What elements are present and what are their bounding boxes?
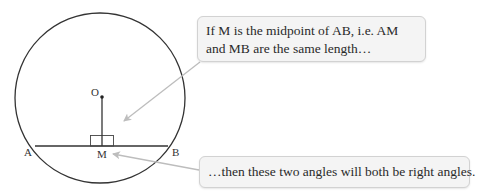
label-a: A <box>24 146 32 158</box>
callout-midpoint-text: If M is the midpoint of AB, i.e. AM and … <box>206 23 398 56</box>
callout-right-angles-text: …then these two angles will both be righ… <box>208 164 475 179</box>
diagram-stage: O A B M If M is the midpoint of AB, i.e.… <box>0 0 485 196</box>
label-o: O <box>91 86 99 98</box>
label-m: M <box>97 148 107 160</box>
center-point <box>100 95 104 99</box>
callout-midpoint: If M is the midpoint of AB, i.e. AM and … <box>197 16 426 62</box>
arrow-to-midpoint-region <box>124 62 200 121</box>
callout-right-angles: …then these two angles will both be righ… <box>199 156 470 188</box>
label-b: B <box>172 146 179 158</box>
arrow-to-m <box>113 154 199 170</box>
